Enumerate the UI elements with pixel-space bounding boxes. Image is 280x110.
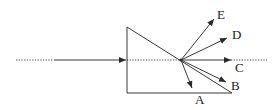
label-c: C (235, 60, 244, 75)
ray-b-arrow (181, 60, 226, 82)
ray-d-arrow (181, 38, 227, 60)
prism-refraction-diagram: A B C D E (0, 0, 280, 110)
label-e: E (217, 7, 225, 22)
ray-e-arrow (181, 19, 214, 60)
exit-point (179, 58, 182, 61)
label-a: A (195, 92, 205, 107)
label-d: D (232, 27, 241, 42)
label-b: B (231, 78, 240, 93)
